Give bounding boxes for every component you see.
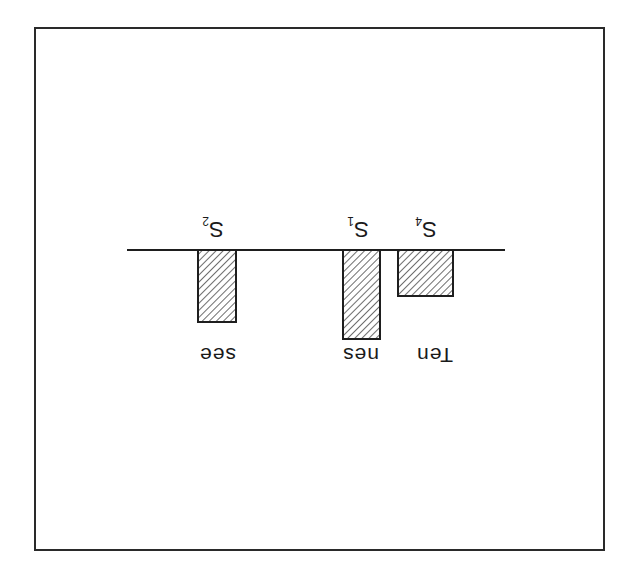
bar-s4-rect	[398, 250, 453, 296]
bar-s1-word: nes	[342, 344, 379, 367]
bar-s4-label: S4	[415, 214, 437, 242]
bar-s1-label: S1	[347, 214, 369, 242]
bar-s2-rect	[198, 250, 236, 322]
bar-s2-label: S2	[202, 214, 224, 242]
bar-s4: Ten S4	[398, 214, 453, 367]
bar-s2-word: see	[199, 344, 236, 367]
figure-frame	[35, 28, 604, 550]
bar-s1-rect	[343, 250, 380, 339]
bar-s4-word: Ten	[416, 344, 453, 367]
bar-s2: see S2	[198, 214, 236, 367]
syllable-stress-diagram: Ten S4 nes S1 see S2	[0, 0, 634, 576]
bar-s1: nes S1	[342, 214, 380, 367]
